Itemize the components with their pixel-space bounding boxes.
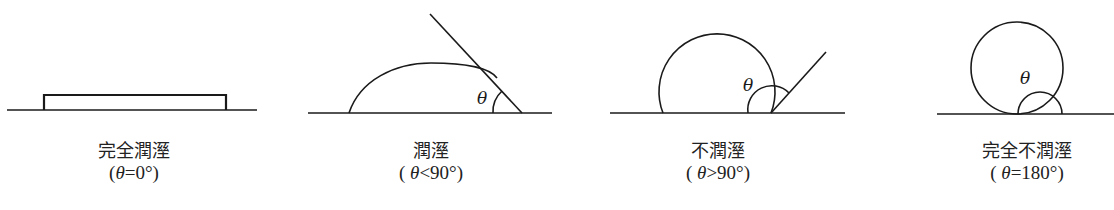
theta-symbol: θ xyxy=(115,162,124,183)
liquid-film xyxy=(44,95,226,110)
droplet-profile xyxy=(971,22,1063,114)
caption-label: 不潤溼 xyxy=(618,140,818,162)
caption-complete-wetting: 完全潤溼 (θ=0°) xyxy=(34,140,234,184)
droplet-profile xyxy=(349,63,497,113)
theta-label: θ xyxy=(743,75,753,95)
figure-wetting: θ xyxy=(308,14,552,113)
caption-complete-non-wetting: 完全不潤溼 ( θ=180°) xyxy=(927,140,1114,184)
condition-value: >90°) xyxy=(706,162,750,183)
theta-label: θ xyxy=(1020,68,1030,88)
condition-value: =0°) xyxy=(125,162,159,183)
caption-label: 完全不潤溼 xyxy=(927,140,1114,162)
condition-value: <90°) xyxy=(419,162,463,183)
figure-complete-non-wetting: θ xyxy=(937,22,1114,114)
angle-arc xyxy=(493,91,502,113)
droplet-profile xyxy=(659,34,775,113)
condition-prefix: ( xyxy=(990,162,1001,183)
figure-non-wetting: θ xyxy=(610,34,845,113)
theta-label: θ xyxy=(477,88,487,108)
condition-prefix: ( xyxy=(686,162,697,183)
condition-value: =180°) xyxy=(1011,162,1064,183)
tangent-line xyxy=(771,52,826,113)
caption-label: 潤溼 xyxy=(331,140,531,162)
theta-symbol: θ xyxy=(697,162,706,183)
caption-condition: ( θ<90°) xyxy=(331,162,531,184)
condition-prefix: ( xyxy=(399,162,410,183)
caption-wetting: 潤溼 ( θ<90°) xyxy=(331,140,531,184)
caption-label: 完全潤溼 xyxy=(34,140,234,162)
caption-condition: ( θ=180°) xyxy=(927,162,1114,184)
theta-symbol: θ xyxy=(1001,162,1010,183)
caption-condition: (θ=0°) xyxy=(34,162,234,184)
caption-non-wetting: 不潤溼 ( θ>90°) xyxy=(618,140,818,184)
theta-symbol: θ xyxy=(410,162,419,183)
figure-complete-wetting xyxy=(7,95,257,110)
caption-condition: ( θ>90°) xyxy=(618,162,818,184)
angle-arc xyxy=(1018,92,1062,114)
